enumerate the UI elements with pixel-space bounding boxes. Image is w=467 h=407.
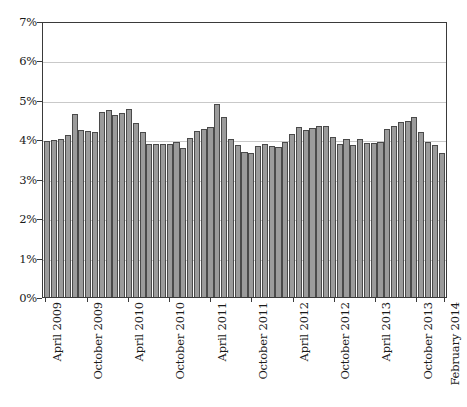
- bar: [228, 139, 234, 297]
- bar: [78, 130, 84, 297]
- bar: [214, 104, 220, 297]
- bar: [364, 143, 370, 297]
- bar: [106, 110, 112, 297]
- x-tick-label: April 2011: [215, 302, 229, 361]
- x-axis: April 2009October 2009April 2010October …: [0, 298, 467, 407]
- x-tick-label: April 2012: [297, 302, 311, 361]
- x-tick-mark: [293, 298, 294, 302]
- bar: [371, 143, 377, 297]
- bar: [248, 153, 254, 297]
- bar: [377, 142, 383, 297]
- bar: [194, 131, 200, 297]
- bar: [221, 117, 227, 297]
- y-tick-label: 4%: [19, 133, 37, 147]
- bar: [180, 148, 186, 297]
- bar: [391, 126, 397, 298]
- bar: [323, 126, 329, 298]
- bar: [405, 121, 411, 297]
- bar: [51, 140, 57, 297]
- y-tick-label: 5%: [19, 94, 37, 108]
- bar: [275, 147, 281, 297]
- bar: [343, 139, 349, 297]
- bar: [384, 129, 390, 297]
- bar: [439, 153, 445, 297]
- bar: [133, 123, 139, 297]
- bar: [207, 127, 213, 297]
- bar: [303, 130, 309, 297]
- bar: [309, 128, 315, 297]
- bar: [269, 146, 275, 297]
- bar: [44, 141, 50, 297]
- bar: [58, 139, 64, 298]
- bar: [235, 145, 241, 297]
- x-tick-mark: [87, 298, 88, 302]
- bar: [126, 109, 132, 297]
- x-tick-label: April 2010: [132, 302, 146, 361]
- bar: [296, 127, 302, 297]
- chart-container: 0%1%2%3%4%5%6%7% April 2009October 2009A…: [0, 0, 467, 407]
- bar: [350, 145, 356, 297]
- y-tick-label: 6%: [19, 54, 37, 68]
- bar: [65, 135, 71, 297]
- bar: [140, 132, 146, 297]
- bar: [282, 142, 288, 297]
- x-tick-label: October 2011: [256, 302, 270, 380]
- bar-series: [43, 23, 446, 297]
- y-tick-label: 2%: [19, 212, 37, 226]
- bar: [187, 138, 193, 297]
- x-tick-mark: [128, 298, 129, 302]
- bar: [425, 142, 431, 297]
- bar: [418, 132, 424, 297]
- bar: [398, 122, 404, 297]
- bar: [160, 144, 166, 297]
- x-tick-mark: [416, 298, 417, 302]
- x-tick-mark: [334, 298, 335, 302]
- bar: [316, 126, 322, 297]
- bar: [72, 114, 78, 297]
- bar: [85, 131, 91, 297]
- x-tick-mark: [210, 298, 211, 302]
- bar: [357, 139, 363, 298]
- x-tick-label: October 2013: [421, 302, 435, 380]
- x-tick-mark: [251, 298, 252, 302]
- x-tick-mark: [375, 298, 376, 302]
- y-tick-label: 3%: [19, 173, 37, 187]
- bar: [411, 117, 417, 297]
- bar: [255, 146, 261, 297]
- x-tick-mark: [169, 298, 170, 302]
- x-tick-mark: [444, 298, 445, 302]
- bar: [432, 145, 438, 297]
- bar: [112, 115, 118, 297]
- x-tick-label: October 2009: [91, 302, 105, 380]
- bar: [167, 144, 173, 297]
- plot-area: [42, 22, 447, 298]
- x-tick-label: October 2010: [173, 302, 187, 380]
- bar: [173, 142, 179, 297]
- y-tick-label: 1%: [19, 252, 37, 266]
- bar: [99, 112, 105, 297]
- bar: [289, 134, 295, 297]
- bar: [146, 144, 152, 297]
- x-tick-label: April 2009: [50, 302, 64, 361]
- bar: [153, 144, 159, 297]
- x-tick-label: October 2012: [338, 302, 352, 380]
- bar: [262, 144, 268, 297]
- bar: [92, 132, 98, 297]
- bar: [330, 137, 336, 297]
- x-tick-label: April 2013: [379, 302, 393, 361]
- y-tick-label: 7%: [19, 15, 37, 29]
- x-tick-mark: [45, 298, 46, 302]
- bar: [201, 129, 207, 297]
- bar: [119, 113, 125, 297]
- bar: [337, 144, 343, 297]
- x-tick-label: February 2014: [448, 302, 462, 386]
- bar: [241, 152, 247, 297]
